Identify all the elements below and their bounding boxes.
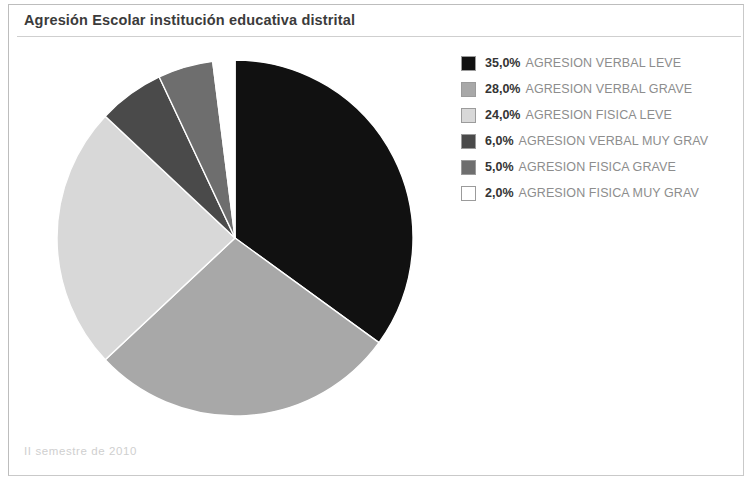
legend-percent: 24,0%: [485, 108, 520, 122]
header-divider: [17, 36, 741, 37]
legend-item[interactable]: 5,0%AGRESION FISICA GRAVE: [461, 154, 736, 180]
pie-slice-group: [57, 60, 413, 416]
chart-legend: 35,0%AGRESION VERBAL LEVE28,0%AGRESION V…: [461, 50, 736, 206]
legend-item[interactable]: 2,0%AGRESION FISICA MUY GRAV: [461, 180, 736, 206]
chart-panel: Agresión Escolar institución educativa d…: [8, 4, 744, 476]
legend-swatch-icon: [461, 82, 476, 97]
legend-percent: 6,0%: [485, 134, 514, 148]
legend-label: AGRESION VERBAL LEVE: [525, 56, 681, 70]
legend-percent: 35,0%: [485, 56, 520, 70]
legend-label: AGRESION VERBAL MUY GRAV: [519, 134, 709, 148]
legend-label: AGRESION VERBAL GRAVE: [525, 82, 692, 96]
legend-label: AGRESION FISICA GRAVE: [519, 160, 676, 174]
legend-item[interactable]: 24,0%AGRESION FISICA LEVE: [461, 102, 736, 128]
pie-chart-svg: [55, 58, 415, 418]
panel-header: Agresión Escolar institución educativa d…: [9, 5, 743, 38]
pie-chart: [55, 58, 415, 418]
legend-swatch-icon: [461, 56, 476, 71]
legend-item[interactable]: 6,0%AGRESION VERBAL MUY GRAV: [461, 128, 736, 154]
footer-note: II semestre de 2010: [24, 445, 137, 457]
legend-percent: 28,0%: [485, 82, 520, 96]
legend-swatch-icon: [461, 186, 476, 201]
legend-percent: 5,0%: [485, 160, 514, 174]
legend-swatch-icon: [461, 160, 476, 175]
chart-screenshot: Agresión Escolar institución educativa d…: [0, 0, 750, 482]
legend-percent: 2,0%: [485, 186, 514, 200]
legend-item[interactable]: 35,0%AGRESION VERBAL LEVE: [461, 50, 736, 76]
legend-item[interactable]: 28,0%AGRESION VERBAL GRAVE: [461, 76, 736, 102]
legend-label: AGRESION FISICA MUY GRAV: [519, 186, 699, 200]
legend-swatch-icon: [461, 134, 476, 149]
legend-label: AGRESION FISICA LEVE: [525, 108, 672, 122]
chart-body: 35,0%AGRESION VERBAL LEVE28,0%AGRESION V…: [9, 38, 743, 475]
legend-swatch-icon: [461, 108, 476, 123]
page-title: Agresión Escolar institución educativa d…: [24, 12, 355, 28]
